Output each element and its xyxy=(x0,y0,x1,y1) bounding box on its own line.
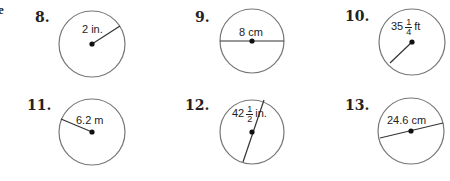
problem-number-8: 8. xyxy=(35,9,50,25)
fraction: 14 xyxy=(405,18,412,37)
measure-label-10: 3514ft xyxy=(391,18,420,37)
measure-label-9: 8 cm xyxy=(239,26,263,38)
problem-number-9: 9. xyxy=(195,9,210,25)
measure-label-12: 4212in. xyxy=(232,105,267,124)
circle-figures xyxy=(0,0,450,181)
measure-label-13: 24.6 cm xyxy=(387,114,426,126)
problem-number-12: 12. xyxy=(185,97,209,113)
problem-number-11: 11. xyxy=(27,97,51,113)
problem-number-13: 13. xyxy=(345,97,369,113)
fraction: 12 xyxy=(246,105,253,124)
measure-label-8: 2 in. xyxy=(82,23,103,35)
measure-label-11: 6.2 m xyxy=(76,114,104,126)
problem-number-10: 10. xyxy=(345,8,369,24)
